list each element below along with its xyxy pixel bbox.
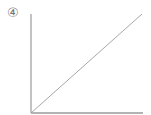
chart-plot <box>0 0 151 115</box>
data-line <box>31 14 142 113</box>
